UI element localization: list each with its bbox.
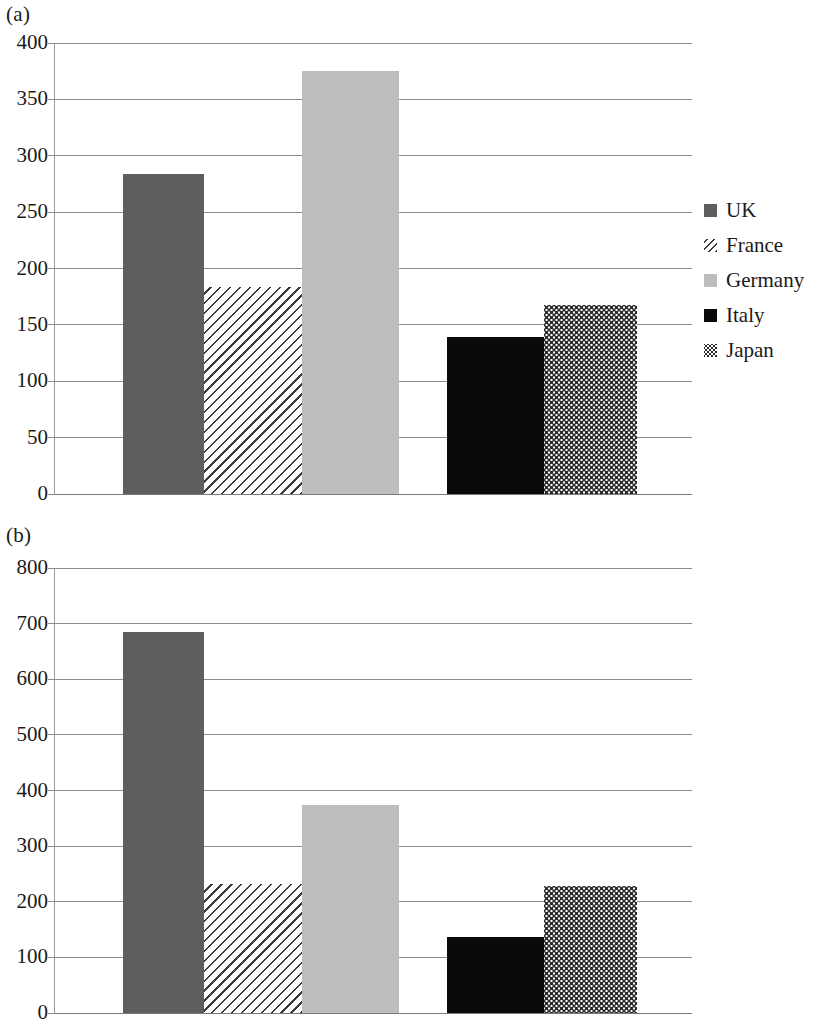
legend-swatch-icon (704, 239, 717, 252)
legend-swatch-icon (704, 309, 717, 322)
y-axis-tick-label: 250 (2, 201, 48, 222)
panel-label-b: (b) (6, 525, 31, 546)
y-axis-tick-label: 500 (2, 724, 48, 745)
gridline (55, 568, 692, 569)
y-axis-tick-label: 800 (2, 557, 48, 578)
legend-label: France (726, 235, 783, 256)
y-axis-tick-label: 150 (2, 314, 48, 335)
y-axis-tick (48, 846, 55, 847)
y-axis-tick-label: 700 (2, 613, 48, 634)
y-axis-tick-label: 0 (2, 1002, 48, 1023)
y-axis-tick (48, 43, 55, 44)
bar-italy (447, 337, 544, 494)
y-axis-tick-label: 200 (2, 891, 48, 912)
legend-item-uk: UK (704, 193, 804, 228)
y-axis-tick (48, 155, 55, 156)
y-axis-labels-a: 050100150200250300350400 (0, 43, 48, 494)
legend-swatch-icon (704, 274, 717, 287)
y-axis-tick (48, 957, 55, 958)
bar-japan (544, 886, 637, 1013)
y-axis-tick (48, 381, 55, 382)
y-axis-labels-b: 0100200300400500600700800 (0, 568, 48, 1013)
legend-label: Germany (726, 270, 804, 291)
y-axis-tick (48, 99, 55, 100)
bar-france (204, 884, 302, 1013)
y-axis-tick (48, 437, 55, 438)
y-axis-tick-label: 300 (2, 145, 48, 166)
y-axis-tick (48, 212, 55, 213)
y-axis-tick-label: 600 (2, 668, 48, 689)
gridline (55, 623, 692, 624)
y-axis-tick (48, 679, 55, 680)
y-axis-tick-label: 350 (2, 88, 48, 109)
legend-item-japan: Japan (704, 333, 804, 368)
legend-a: UKFranceGermanyItalyJapan (704, 193, 804, 368)
legend-label: Italy (726, 305, 764, 326)
bar-france (204, 287, 302, 494)
y-axis-tick (48, 901, 55, 902)
y-axis-tick (48, 494, 55, 495)
y-axis-tick (48, 268, 55, 269)
y-axis-tick (48, 623, 55, 624)
legend-item-germany: Germany (704, 263, 804, 298)
legend-item-italy: Italy (704, 298, 804, 333)
gridline (55, 43, 692, 44)
plot-area-a (55, 43, 692, 494)
chart-panel-a: (a) 050100150200250300350400 UKFranceGer… (0, 0, 822, 520)
y-axis-tick (48, 568, 55, 569)
bar-japan (544, 305, 637, 494)
legend-swatch-icon (704, 344, 717, 357)
y-axis-tick-label: 400 (2, 32, 48, 53)
y-axis-tick (48, 324, 55, 325)
legend-item-france: France (704, 228, 804, 263)
y-axis-tick-label: 50 (2, 427, 48, 448)
bar-germany (302, 71, 399, 494)
plot-area-b (55, 568, 692, 1013)
y-axis-tick (48, 790, 55, 791)
y-axis-tick (48, 734, 55, 735)
y-axis-tick-label: 100 (2, 370, 48, 391)
y-axis-tick-label: 400 (2, 780, 48, 801)
y-axis-tick-label: 200 (2, 258, 48, 279)
bar-uk (123, 174, 204, 494)
panel-label-a: (a) (6, 4, 30, 25)
legend-label: UK (726, 200, 756, 221)
bar-britain (123, 632, 204, 1013)
legend-swatch-icon (704, 204, 717, 217)
y-axis-tick (48, 1013, 55, 1014)
chart-panel-b: (b) 0100200300400500600700800 BritainFra… (0, 520, 822, 1025)
y-axis-tick-label: 300 (2, 835, 48, 856)
bar-germany (302, 805, 399, 1013)
legend-label: Japan (726, 340, 774, 361)
y-axis-tick-label: 100 (2, 946, 48, 967)
y-axis-tick-label: 0 (2, 483, 48, 504)
bar-italy (447, 937, 544, 1013)
